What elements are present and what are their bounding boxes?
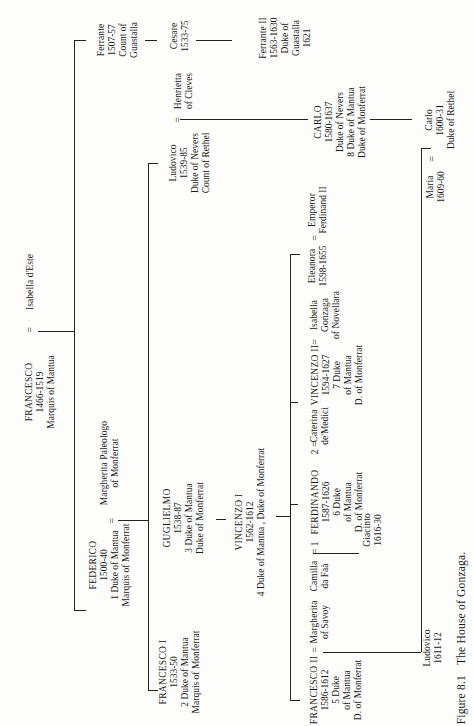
person-name: Ludovico	[168, 133, 179, 194]
person-ferrante: Ferrante 1507-57 Count of Guastalla	[96, 22, 140, 58]
marriage-sign: =	[107, 518, 117, 524]
person-title: of Novellara	[331, 291, 342, 339]
person-title: Marquis of Mantua	[46, 355, 57, 428]
person-federico: FEDERICO 1500-40 1 Duke of Mantua Marqui…	[88, 524, 132, 607]
person-title: 1 Duke of Mantua	[110, 524, 121, 607]
person-title: 7 Duke	[332, 345, 343, 406]
person-dates: 1609-60	[436, 171, 447, 203]
person-dates: 1580-1637	[324, 86, 335, 158]
figure-title: The House of Gonzaga.	[455, 552, 467, 665]
person-title: Ferdinand II	[318, 186, 329, 233]
marriage-sign: =	[25, 327, 35, 333]
person-name: FRANCESCO	[24, 355, 35, 428]
person-title: Count of	[118, 22, 129, 58]
person-caterina: Caterina de'Medici	[309, 407, 331, 445]
person-name: Isabella	[309, 291, 320, 339]
person-name: Isabella d'Este	[25, 254, 36, 310]
connector-to-ferrante	[74, 40, 86, 41]
person-name: Ferrante II	[258, 17, 269, 58]
connector-cesare-ferrante-ii	[196, 40, 232, 41]
person-dates: 1586-1612	[320, 656, 331, 724]
connector-guglielmo-vincenzo	[216, 519, 226, 520]
person-dates: 1466-1519	[35, 355, 46, 428]
person-isabella-deste: Isabella d'Este	[25, 254, 36, 310]
person-dates: 1538-87	[173, 482, 184, 554]
person-title: of Mantua	[343, 470, 354, 535]
person-title: of Cleves	[184, 73, 195, 109]
person-dates: 1562-1612	[245, 448, 256, 596]
person-title: of Savoy	[320, 600, 331, 643]
person-name: Eleanora	[307, 245, 318, 286]
marriage-sign: =	[427, 156, 437, 162]
person-name: GUGLIELMO	[162, 482, 173, 554]
person-name: Margherita	[309, 600, 320, 643]
connector-trunk-gen5	[421, 148, 422, 652]
person-dates: 1600-31	[435, 91, 446, 149]
person-name: VINCENZO II	[310, 345, 321, 406]
person-margherita-paleologo: Margherita Paleologo of Monferrat	[99, 421, 121, 505]
person-ludovico-infant: Ludovico 1611-12	[422, 629, 444, 666]
person-title: Duke of Monferrat	[195, 482, 206, 554]
person-title: 5 Duke	[331, 656, 342, 724]
person-title: of Mantua	[343, 345, 354, 406]
person-francesco: FRANCESCO 1466-1519 Marquis of Mantua	[24, 355, 57, 428]
person-dates: 1539-85	[179, 133, 190, 194]
person-carlo-rethel: Carlo 1600-31 Duke of Rethel	[424, 91, 457, 149]
family-tree-page: FRANCESCO 1466-1519 Marquis of Mantua = …	[0, 0, 473, 726]
connector-to-ferdinando	[290, 504, 298, 505]
person-dates: 1611-12	[433, 629, 444, 666]
person-francesco-ii: FRANCESCO II 1586-1612 5 Duke of Mantua …	[309, 656, 364, 724]
person-title: Guastalla	[291, 17, 302, 58]
person-dates: 1533-50	[169, 631, 180, 714]
person-name: Emperor	[307, 186, 318, 233]
connector-francesco-marriage	[38, 331, 74, 332]
person-title: Count of Rethel	[201, 133, 212, 194]
person-giacinto: Giacinto 1616-30	[362, 513, 384, 547]
person-title: Gonzaga	[320, 291, 331, 339]
person-name: Henrietta	[173, 73, 184, 109]
person-name: FERDINANDO	[310, 470, 321, 535]
person-ludovico-nevers: Ludovico 1539-85 Duke of Nevers Count of…	[168, 133, 212, 194]
person-dates: 1533-75	[180, 20, 191, 52]
person-name: Margherita Paleologo	[99, 421, 110, 505]
person-dates: 1507-57	[107, 22, 118, 58]
person-title: 4 Duke of Mantua , Duke of Monferrat	[256, 448, 267, 596]
person-title: Marquis of Monferrat	[121, 524, 132, 607]
person-title: 6 Duke	[332, 470, 343, 535]
person-name: VINCENZO I	[234, 448, 245, 596]
person-dates: 1563-1630	[269, 17, 280, 58]
person-title: Guastalla	[129, 22, 140, 58]
connector-to-eleanora	[290, 254, 300, 255]
person-vincenzo-i: VINCENZO I 1562-1612 4 Duke of Mantua , …	[234, 448, 267, 596]
person-eleanora: Eleanora 1598-1655	[307, 245, 329, 286]
connector-ludovico-marriage	[180, 119, 308, 120]
person-name: Giacinto	[362, 513, 373, 547]
marriage-sign: =	[310, 339, 320, 345]
connector-to-francesco-i	[148, 690, 158, 691]
person-title: Duke of	[280, 17, 291, 58]
connector-trunk-gen2	[148, 163, 149, 690]
person-dates: 1587-1626	[321, 470, 332, 535]
person-isabella-gonzaga: Isabella Gonzaga of Novellara	[309, 291, 342, 339]
person-camilla: Camilla da Faà	[309, 561, 331, 592]
marriage-sign-1: = 1	[310, 541, 320, 554]
person-title: D. of Monferrat	[353, 656, 364, 724]
person-guglielmo: GUGLIELMO 1538-87 3 Duke of Mantua Duke …	[162, 482, 206, 554]
person-title: 3 Duke of Mantua	[184, 482, 195, 554]
connector-trunk-gen1	[74, 40, 75, 610]
person-name: Maria	[425, 171, 436, 203]
person-dates: 1500-40	[99, 524, 110, 607]
figure-number: Figure 8.1	[455, 675, 467, 724]
connector-to-ludovico-nevers	[148, 163, 158, 164]
connector-federico-marriage	[118, 520, 148, 521]
marriage-sign: =	[310, 647, 320, 653]
person-name: Ferrante	[96, 22, 107, 58]
person-title: de'Medici	[320, 407, 331, 445]
person-title: 8 Duke of Mantua	[346, 86, 357, 158]
connector-carlo-son	[370, 119, 412, 120]
person-title: of Mantua	[342, 656, 353, 724]
person-title: da Faà	[320, 561, 331, 592]
person-title: Duke of Nevers	[190, 133, 201, 194]
person-title: Duke of Rethel	[446, 91, 457, 149]
person-francesco-i: FRANCESCO I 1533-50 2 Duke of Mantua Mar…	[158, 631, 202, 714]
